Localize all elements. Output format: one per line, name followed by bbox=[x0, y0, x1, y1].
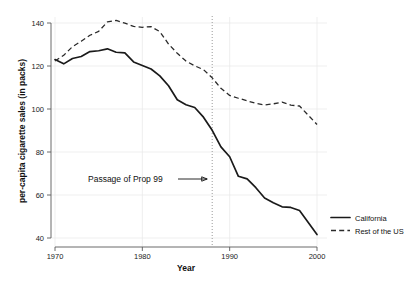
chart-figure: 406080100120140 1970198019902000 Passage… bbox=[0, 0, 411, 287]
y-tick-label: 80 bbox=[36, 148, 44, 157]
x-tick-label: 1990 bbox=[221, 252, 238, 261]
x-axis-title: Year bbox=[177, 263, 196, 273]
legend-label-california: California bbox=[355, 214, 388, 223]
y-tick-label: 60 bbox=[36, 191, 44, 200]
legend-label-rest-of-us: Rest of the US bbox=[355, 227, 404, 236]
y-axis-title: per-capita cigarette sales (in packs) bbox=[17, 59, 27, 203]
y-tick-label: 100 bbox=[31, 105, 44, 114]
cigarette-sales-line-chart: 406080100120140 1970198019902000 Passage… bbox=[0, 0, 411, 287]
x-tick-label: 1970 bbox=[47, 252, 64, 261]
chart-background bbox=[0, 0, 411, 287]
y-tick-label: 120 bbox=[31, 62, 44, 71]
y-tick-label: 40 bbox=[36, 234, 44, 243]
x-tick-label: 1980 bbox=[134, 252, 151, 261]
x-tick-label: 2000 bbox=[309, 252, 326, 261]
annotation-label: Passage of Prop 99 bbox=[88, 174, 163, 184]
y-tick-label: 140 bbox=[31, 19, 44, 28]
